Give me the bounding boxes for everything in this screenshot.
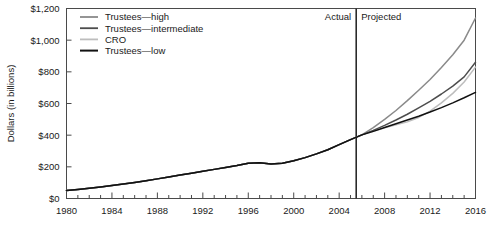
x-tick-label: 1988 [147, 205, 168, 216]
x-tick-label: 2016 [465, 205, 486, 216]
actual-label: Actual [325, 11, 351, 22]
x-tick-label: 1996 [238, 205, 259, 216]
y-axis-title: Dollars (in billions) [5, 65, 16, 143]
x-tick-label: 1992 [192, 205, 213, 216]
legend-label-2: CRO [105, 34, 126, 45]
legend-label-1: Trustees—intermediate [105, 23, 203, 34]
y-tick-label: $1,200 [30, 3, 59, 14]
series-line-trustees-low [67, 92, 476, 190]
x-tick-label: 2008 [374, 205, 395, 216]
x-tick-label: 2000 [283, 205, 304, 216]
y-tick-label: $400 [38, 130, 59, 141]
x-tick-label: 2004 [329, 205, 350, 216]
y-tick-label: $600 [38, 98, 59, 109]
x-tick-label: 2012 [419, 205, 440, 216]
series-line-trustees-intermediate [67, 62, 476, 190]
projected-label: Projected [361, 11, 401, 22]
y-tick-label: $200 [38, 161, 59, 172]
plot-frame [67, 9, 476, 199]
series-line-cro [67, 67, 476, 191]
line-chart: $0$200$400$600$800$1,000$1,200Dollars (i… [0, 0, 488, 229]
legend-label-3: Trustees—low [105, 45, 165, 56]
y-tick-label: $800 [38, 66, 59, 77]
legend-label-0: Trustees—high [105, 11, 169, 22]
y-tick-label: $1,000 [30, 35, 59, 46]
y-tick-label: $0 [49, 193, 60, 204]
x-tick-label: 1980 [56, 205, 77, 216]
chart-container: $0$200$400$600$800$1,000$1,200Dollars (i… [0, 0, 488, 229]
x-tick-label: 1984 [101, 205, 122, 216]
